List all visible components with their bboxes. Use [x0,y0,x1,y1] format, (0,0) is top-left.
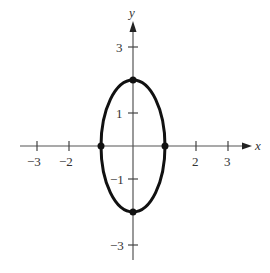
x-axis-label: x [254,138,261,153]
y-tick-label: 1 [116,106,123,121]
y-tick-label: 3 [116,40,123,55]
x-tick-label: 3 [224,154,231,169]
x-tick-label: −3 [27,154,41,169]
vertex-bottom [130,209,137,216]
vertex-right [162,143,169,150]
y-tick-label: −1 [110,172,124,187]
y-tick-label: −3 [110,238,124,253]
x-axis-arrow-icon [242,143,252,150]
x-tick-label: 2 [192,154,199,169]
vertex-left [98,143,105,150]
chart: x y −3 −2 2 3 3 1 −1 −3 [0,0,270,273]
y-axis-label: y [127,5,135,20]
vertex-top [130,77,137,84]
x-tick-label: −2 [59,154,73,169]
y-axis-arrow-icon [130,21,137,32]
